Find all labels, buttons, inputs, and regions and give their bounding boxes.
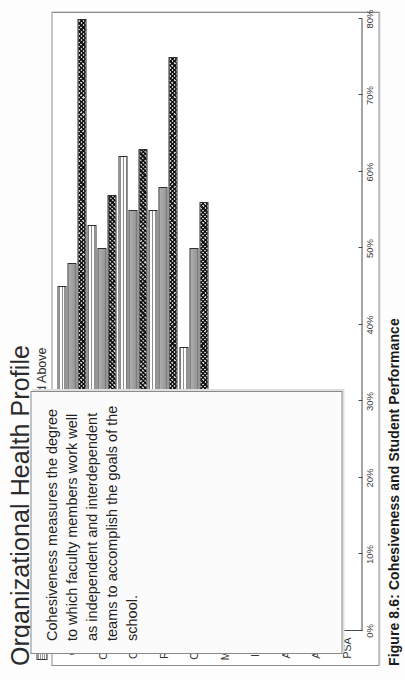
axis-tick (358, 630, 362, 631)
axis-tick (358, 554, 362, 555)
value-axis-tick-label: 0% (363, 624, 374, 638)
value-axis: 0%10%20%30%40%50%60%70%80% (362, 19, 378, 631)
axis-tick (358, 171, 362, 172)
axis-tick (358, 477, 362, 478)
value-axis-tick-label: 20% (363, 468, 374, 487)
axis-tick (358, 401, 362, 402)
value-axis-tick-label: 60% (363, 162, 374, 181)
value-axis-tick-label: 40% (363, 315, 374, 334)
callout-textbox: Cohesiveness measures the degree to whic… (30, 391, 342, 654)
chart-title: Organizational Health Profile (6, 10, 33, 666)
value-axis-tick-label: 70% (363, 86, 374, 105)
value-axis-tick-label: 10% (363, 545, 374, 564)
axis-tick (358, 324, 362, 325)
value-axis-tick-label: 30% (363, 392, 374, 411)
axis-tick (358, 18, 362, 19)
axis-tick (358, 95, 362, 96)
axis-tick (358, 248, 362, 249)
rotated-figure-wrapper: Organizational Health Profile 50 and Bel… (0, 0, 405, 680)
value-axis-tick-label: 80% (363, 9, 374, 28)
figure-caption: Figure 8.6: Cohesiveness and Student Per… (385, 10, 401, 666)
figure: Organizational Health Profile 50 and Bel… (0, 0, 405, 680)
value-axis-tick-label: 50% (363, 239, 374, 258)
